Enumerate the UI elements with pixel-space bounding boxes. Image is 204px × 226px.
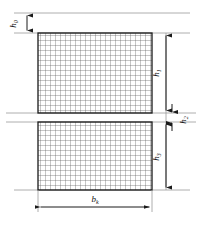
upper-section <box>38 33 152 113</box>
dimension-drawing: h0 h1 h2 h3 b <box>0 0 204 226</box>
upper-section-hatch <box>38 33 152 113</box>
lower-section <box>38 122 152 190</box>
diagram-canvas: h0 h1 h2 h3 b <box>0 0 204 226</box>
lower-section-hatch <box>38 122 152 190</box>
